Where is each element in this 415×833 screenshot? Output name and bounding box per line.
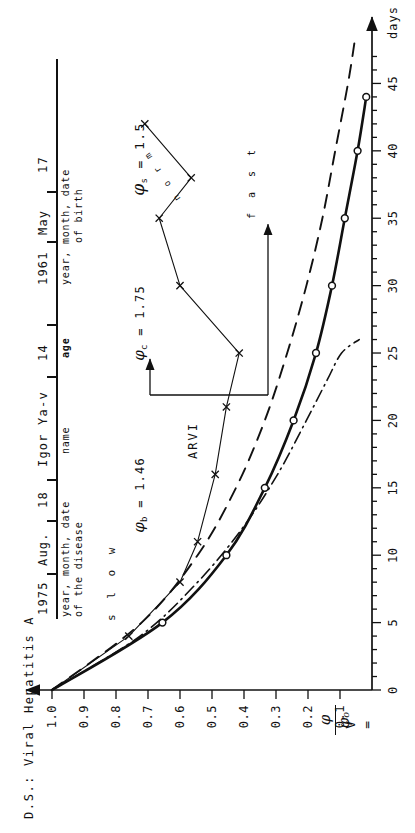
figure-root: D.S.: Viral Hepatitis A 1975 Aug. 18 Igo… (0, 0, 415, 833)
x-axis-tick-label: 25 (386, 345, 400, 360)
plot-svg: 051015202530354045days1.00.90.80.70.60.5… (0, 0, 415, 833)
x-axis-tick-label: 20 (386, 413, 400, 428)
x-axis-tick-label: 40 (386, 143, 400, 158)
rotated-figure-canvas: D.S.: Viral Hepatitis A 1975 Aug. 18 Igo… (0, 0, 415, 833)
y-axis-tick-label: 0.8 (109, 705, 123, 728)
series-line-slow (52, 124, 239, 690)
data-point-marker-circle (290, 417, 297, 424)
x-axis-unit-label: days (386, 6, 400, 39)
series-line-fast (52, 340, 359, 690)
x-axis-tick-label: 0 (386, 686, 400, 694)
y-axis-tick-label: 1.0 (45, 705, 59, 728)
x-axis-tick-label: 10 (386, 547, 400, 562)
data-point-marker-x (188, 174, 195, 181)
data-point-marker-circle (341, 215, 348, 222)
data-point-marker-x (236, 349, 243, 356)
data-point-marker-x (176, 282, 183, 289)
y-axis-tick-label: 0.3 (269, 705, 283, 728)
y-axis-tick-label: 0.2 (301, 705, 315, 728)
data-point-marker-circle (363, 94, 370, 101)
y-axis-tick-label: 0.5 (205, 705, 219, 728)
data-point-marker-circle (313, 350, 320, 357)
y-axis-tick-label: 0.9 (77, 705, 91, 728)
series-line-norm (52, 97, 366, 690)
data-point-marker-x (194, 538, 201, 545)
data-point-marker-circle (261, 484, 268, 491)
data-point-marker-circle (329, 282, 336, 289)
x-axis-tick-label: 5 (386, 619, 400, 627)
series-line-slow-reference (52, 43, 354, 690)
x-axis-tick-label: 15 (386, 480, 400, 495)
x-axis-tick-label: 45 (386, 76, 400, 91)
y-axis-tick-label: 0.1 (333, 705, 347, 728)
data-point-marker-circle (354, 147, 361, 154)
y-axis-tick-label: 0.7 (141, 705, 155, 728)
data-point-marker-x (141, 120, 148, 127)
y-axis-tick-label: 0.6 (173, 705, 187, 728)
x-axis-tick-label: 35 (386, 211, 400, 226)
x-axis-tick-label: 30 (386, 278, 400, 293)
y-axis-tick-label: 0.4 (237, 705, 251, 728)
data-point-marker-x (156, 215, 163, 222)
